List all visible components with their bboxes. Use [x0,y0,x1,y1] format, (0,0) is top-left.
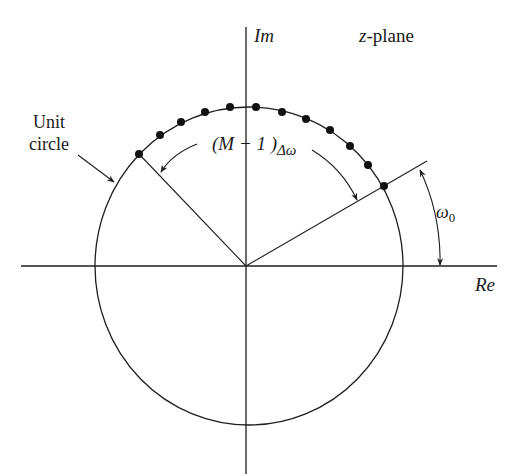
sample-point [252,103,260,111]
sample-point [226,103,234,111]
sample-point [201,108,209,116]
angle-span-label: (M − 1 )Δω [212,133,296,158]
sample-point [346,142,354,150]
sample-point [135,150,143,158]
sample-point [302,115,310,123]
sample-point [278,108,286,116]
radial-line-first-sample [246,161,427,266]
plane-title: z-plane [358,25,414,46]
sample-point [380,182,388,190]
sample-point [326,126,334,134]
sample-point [177,118,185,126]
z-plane-diagram: Im z-plane Re Unit circle (M − 1 )Δω ω0 [0,0,527,476]
real-axis-label: Re [474,274,495,295]
imag-axis-label: Im [253,25,274,46]
span-arrow-right [312,150,357,200]
sample-point [156,131,164,139]
unit-circle-label-line2: circle [29,134,69,154]
omega0-label: ω0 [436,202,455,225]
unit-circle-pointer [78,155,114,182]
unit-circle-label-line1: Unit [33,112,65,132]
sample-point [364,161,372,169]
angle-span-suffix: Δω [276,142,296,158]
span-arrow-left [161,144,197,172]
angle-span-prefix: (M − 1 ) [212,133,277,155]
radial-line-last-sample [139,154,246,266]
